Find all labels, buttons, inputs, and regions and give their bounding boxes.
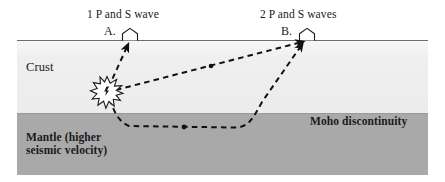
mantle-label: Mantle (higher seismic velocity) <box>26 131 107 157</box>
crust-layer <box>17 41 428 114</box>
wave-label-1: 1 P and S wave <box>87 8 159 21</box>
crust-label: Crust <box>26 60 54 74</box>
moho-discontinuity-label: Moho discontinuity <box>310 115 407 128</box>
moho-discontinuity-line <box>17 113 428 114</box>
wave-label-2: 2 P and S waves <box>260 8 336 21</box>
station-a-label: A. <box>104 25 116 38</box>
station-b-label: B. <box>281 25 292 38</box>
seismic-station-b-icon <box>300 28 315 40</box>
seismic-cross-section-diagram: 1 P and S wave 2 P and S waves A. B. Cru… <box>0 0 445 182</box>
seismic-station-a-icon <box>123 28 138 40</box>
ground-surface-line <box>17 40 428 41</box>
